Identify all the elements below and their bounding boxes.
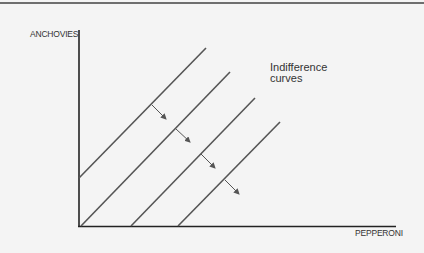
x-axis-label: PEPPERONI [355, 228, 403, 238]
indifference-curve-4 [178, 122, 280, 226]
curves-annotation: Indifference curves [270, 62, 327, 84]
indifference-curve-1 [79, 48, 206, 178]
preference-arrow-icon [201, 154, 215, 168]
preference-arrow-icon [176, 129, 190, 142]
y-axis-label: ANCHOVIES [30, 29, 78, 39]
indifference-curve-2 [81, 72, 230, 226]
preference-arrow-icon [225, 180, 239, 194]
indifference-curve-3 [131, 98, 255, 226]
annotation-line-2: curves [270, 73, 327, 84]
preference-arrow-icon [152, 105, 166, 119]
